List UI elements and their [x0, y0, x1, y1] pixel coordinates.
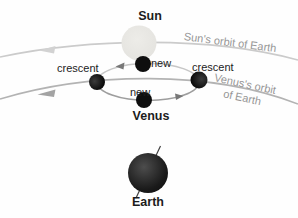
venus-label: Venus	[133, 110, 170, 124]
venus-crescent-left-circle	[89, 74, 105, 90]
sun-circle	[122, 26, 157, 61]
crescent-left-label: crescent	[57, 62, 99, 74]
venus-crescent-right-circle	[191, 72, 208, 89]
earth-circle	[128, 153, 168, 193]
new-bottom-label: new	[130, 86, 150, 98]
ptolemaic-venus-diagram: Sun Sun's orbit of Earth crescent cresce…	[0, 0, 298, 218]
venus-new-top-circle	[135, 56, 151, 72]
earth-label: Earth	[132, 196, 164, 210]
epicycle-arrow-right-icon	[175, 94, 184, 101]
crescent-right-label: crescent	[192, 61, 234, 73]
epicycle-arrow-left-icon	[116, 63, 125, 70]
new-top-label: new	[151, 57, 171, 69]
sun-label: Sun	[138, 10, 162, 24]
venus-deferent-arrow-icon	[38, 90, 56, 98]
